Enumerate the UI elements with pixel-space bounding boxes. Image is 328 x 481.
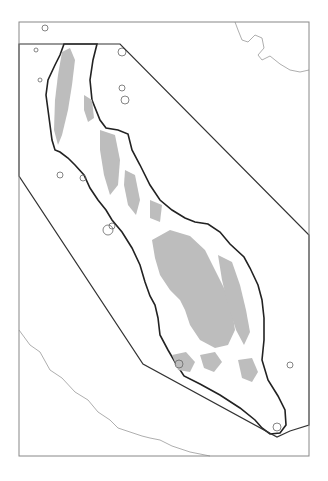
map-canvas: [0, 0, 328, 481]
map-figure: [0, 0, 328, 481]
